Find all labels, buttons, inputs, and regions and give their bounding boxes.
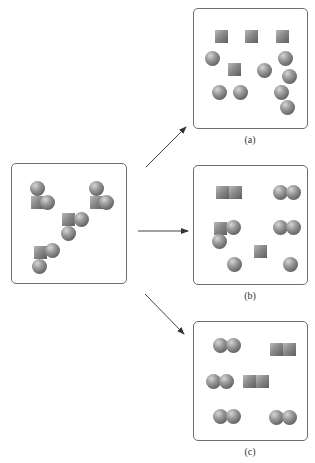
product-a-sphere-atom: [205, 51, 220, 66]
product-b-sphere-atom: [286, 220, 301, 235]
reactant-sphere-atom: [61, 226, 76, 241]
product-a-sphere-atom: [280, 100, 295, 115]
reactant-sphere-atom: [30, 181, 45, 196]
reactant-sphere-atom: [40, 195, 55, 210]
reactant-sphere-atom: [32, 259, 47, 274]
product-b-sphere-atom: [283, 257, 298, 272]
reactant-sphere-atom: [45, 243, 60, 258]
product-c-square-atom: [270, 343, 283, 356]
reactant-sphere-atom: [74, 212, 89, 227]
product-c-sphere-atom: [282, 410, 297, 425]
product-b-sphere-atom: [212, 234, 227, 249]
product-a-square-atom: [215, 30, 228, 43]
product-c-square-atom: [256, 375, 269, 388]
product-b-square-atom: [216, 186, 229, 199]
product-a-sphere-atom: [233, 85, 248, 100]
product-c-sphere-atom: [219, 374, 234, 389]
product-c-square-atom: [283, 343, 296, 356]
product-a-sphere-atom: [257, 63, 272, 78]
product-c-sphere-atom: [226, 409, 241, 424]
reactant-sphere-atom: [89, 181, 104, 196]
product-a-square-atom: [245, 30, 258, 43]
product-b-sphere-atom: [286, 185, 301, 200]
product-a-sphere-atom: [212, 85, 227, 100]
product-c-sphere-atom: [226, 338, 241, 353]
product-a-square-atom: [276, 30, 289, 43]
product-a-sphere-atom: [282, 69, 297, 84]
product-a-sphere-atom: [274, 85, 289, 100]
arrow-to-a: [146, 127, 186, 167]
product-a-sphere-atom: [278, 51, 293, 66]
product-b-square-atom: [214, 222, 227, 235]
product-b-square-atom: [229, 186, 242, 199]
product-a-square-atom: [228, 63, 241, 76]
reactant-sphere-atom: [99, 195, 114, 210]
arrow-to-c: [145, 294, 184, 334]
product-b-sphere-atom: [226, 220, 241, 235]
product-b-sphere-atom: [227, 257, 242, 272]
product-b-square-atom: [254, 245, 267, 258]
product-c-square-atom: [243, 375, 256, 388]
